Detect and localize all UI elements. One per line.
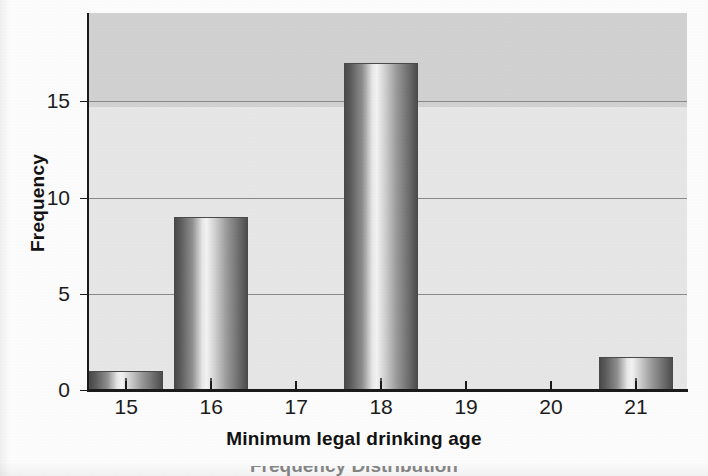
bar <box>344 63 418 390</box>
x-tick-label: 21 <box>606 396 666 417</box>
y-tick-mark <box>80 294 88 295</box>
x-tick-label: 17 <box>266 396 326 417</box>
x-tick-mark <box>550 381 552 390</box>
x-tick-mark <box>295 381 297 390</box>
x-tick-label: 16 <box>181 396 241 417</box>
x-tick-label: 20 <box>521 396 581 417</box>
x-tick-mark <box>465 381 467 390</box>
x-tick-mark <box>125 381 127 390</box>
bar <box>174 217 248 390</box>
x-tick-label: 18 <box>351 396 411 417</box>
x-axis-title: Minimum legal drinking age <box>0 428 708 450</box>
x-tick-label: 19 <box>436 396 496 417</box>
y-tick-label: 0 <box>30 379 70 400</box>
x-axis-line <box>87 389 688 392</box>
y-tick-mark <box>80 101 88 102</box>
scan-shadow-left <box>0 0 10 476</box>
x-tick-mark <box>210 381 212 390</box>
y-tick-mark <box>80 198 88 199</box>
x-tick-mark <box>380 381 382 390</box>
plot-area <box>88 13 687 390</box>
y-axis-line <box>87 13 89 391</box>
y-axis-title: Frequency <box>27 103 49 303</box>
y-tick-mark <box>80 390 88 391</box>
scan-shadow-bottom <box>0 462 708 476</box>
figure-container: 051015 15161718192021 Minimum legal drin… <box>0 0 708 476</box>
x-tick-label: 15 <box>96 396 156 417</box>
x-tick-mark <box>635 381 637 390</box>
